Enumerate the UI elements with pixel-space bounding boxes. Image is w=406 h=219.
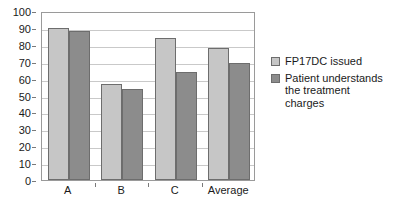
y-tick-label: 40: [19, 108, 31, 119]
bar-group: [155, 13, 197, 180]
legend-swatch: [271, 74, 280, 83]
y-tick-label: 100: [13, 7, 31, 18]
y-tick-mark: [32, 80, 36, 81]
y-tick-mark: [32, 12, 36, 13]
y-tick-label: 90: [19, 23, 31, 34]
x-axis: ABCAverage: [41, 183, 255, 203]
y-tick-mark: [32, 130, 36, 131]
bar: [69, 31, 90, 180]
bar-group: [48, 13, 90, 180]
bar: [48, 28, 69, 180]
y-tick-mark: [32, 113, 36, 114]
legend-entry: FP17DC issued: [271, 55, 401, 68]
y-tick-mark: [32, 63, 36, 64]
x-tick-mark: [95, 183, 96, 187]
y-axis: 0102030405060708090100: [0, 12, 36, 181]
x-tick-mark: [148, 183, 149, 187]
y-tick-mark: [32, 97, 36, 98]
legend-label: FP17DC issued: [285, 55, 362, 68]
bar: [101, 84, 122, 180]
x-tick-label: A: [64, 185, 71, 196]
y-tick-label: 20: [19, 142, 31, 153]
y-tick-label: 30: [19, 125, 31, 136]
bar-group: [208, 13, 250, 180]
legend-label: Patient understandsthe treatmentcharges: [285, 72, 383, 110]
y-tick-label: 80: [19, 40, 31, 51]
y-tick-mark: [32, 164, 36, 165]
legend: FP17DC issuedPatient understandsthe trea…: [271, 55, 401, 113]
bars-layer: [42, 13, 254, 180]
x-tick-label: Average: [208, 185, 249, 196]
y-tick-mark: [32, 46, 36, 47]
y-tick-label: 70: [19, 57, 31, 68]
y-tick-mark: [32, 147, 36, 148]
y-tick-label: 0: [25, 176, 31, 187]
y-tick-label: 60: [19, 74, 31, 85]
x-tick-label: C: [171, 185, 179, 196]
bar: [176, 72, 197, 180]
legend-entry: Patient understandsthe treatmentcharges: [271, 72, 401, 110]
y-tick-mark: [32, 181, 36, 182]
bar: [229, 63, 250, 180]
plot-area: [41, 12, 255, 181]
y-tick-mark: [32, 29, 36, 30]
x-tick-label: B: [118, 185, 125, 196]
y-tick-label: 10: [19, 159, 31, 170]
bar: [155, 38, 176, 180]
legend-swatch: [271, 57, 280, 66]
bar: [208, 48, 229, 180]
bar-chart: 0102030405060708090100 ABCAverage FP17DC…: [0, 0, 406, 219]
y-tick-label: 50: [19, 91, 31, 102]
bar: [122, 89, 143, 180]
bar-group: [101, 13, 143, 180]
x-tick-mark: [202, 183, 203, 187]
